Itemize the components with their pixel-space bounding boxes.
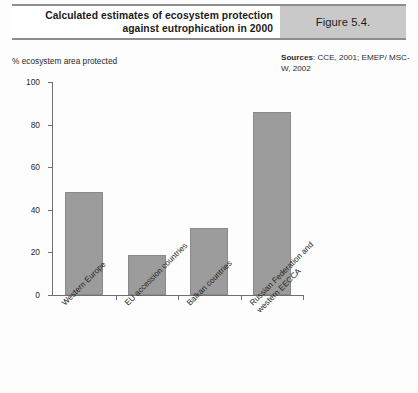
y-tick: 60	[48, 167, 53, 168]
y-tick: 100	[48, 82, 53, 83]
y-tick: 0	[48, 295, 53, 296]
x-tick	[116, 295, 117, 300]
y-axis-label: % ecosystem area protected	[12, 56, 117, 66]
y-axis-line	[52, 82, 53, 296]
y-tick-label: 20	[31, 247, 40, 257]
y-tick: 20	[48, 252, 53, 253]
x-tick	[303, 295, 304, 300]
y-tick-label: 60	[31, 162, 40, 172]
y-tick-label: 0	[35, 290, 40, 300]
y-tick-label: 40	[31, 205, 40, 215]
bar-chart: % ecosystem area protected 020406080100 …	[0, 0, 418, 393]
x-tick	[241, 295, 242, 300]
plot-area: 020406080100	[53, 82, 303, 295]
y-tick-label: 100	[26, 77, 40, 87]
y-tick: 80	[48, 125, 53, 126]
figure-page: Calculated estimates of ecosystem protec…	[0, 0, 418, 393]
y-tick-label: 80	[31, 120, 40, 130]
y-tick: 40	[48, 210, 53, 211]
x-tick	[178, 295, 179, 300]
